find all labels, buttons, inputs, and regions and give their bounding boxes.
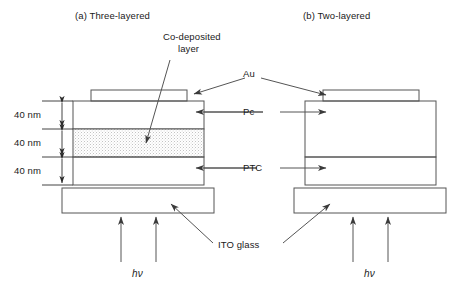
dimension-label-codeposited: 40 nm [14,137,41,148]
device-structure-figure: (a) Three-layered (b) Two-layered Co-dep… [0,0,451,290]
panel-b-two-layered-device [294,90,446,213]
leader-au-panel-a [194,78,245,94]
panel-b-title: (b) Two-layered [303,10,370,21]
hv-nu-panel-b: ν [370,268,375,279]
codeposited-layer-panel-a [73,129,204,157]
dimension-annotations-panel-a [42,101,73,185]
dimension-label-ptc: 40 nm [14,165,41,176]
leader-au-panel-b [261,78,326,95]
hv-nu-panel-a: ν [138,268,143,279]
pc-layer-panel-a [73,101,204,129]
hv-label-panel-a: hν [132,268,143,279]
leader-ito-panel-b [283,204,330,243]
ptc-layer-panel-a [73,157,204,185]
ito-glass-substrate-panel-b [294,188,446,213]
au-electrode-layer-panel-a [91,90,187,101]
pc-label: Pc [243,106,254,117]
codeposited-layer-label-line2: layer [178,43,199,54]
dimension-label-pc: 40 nm [14,109,41,120]
ptc-layer-panel-b [305,157,436,185]
au-electrode-layer-panel-b [323,90,419,101]
codeposited-layer-label-line1: Co-deposited [163,31,221,42]
hv-label-panel-b: hν [364,268,375,279]
ptc-label: PTC [243,162,262,173]
panel-a-three-layered-device [62,90,214,213]
au-label: Au [243,68,255,79]
ito-glass-substrate-panel-a [62,188,214,213]
ito-glass-label: ITO glass [218,239,259,250]
pc-layer-panel-b [305,101,436,157]
panel-a-title: (a) Three-layered [75,10,150,21]
leader-ito-panel-a [171,204,213,243]
